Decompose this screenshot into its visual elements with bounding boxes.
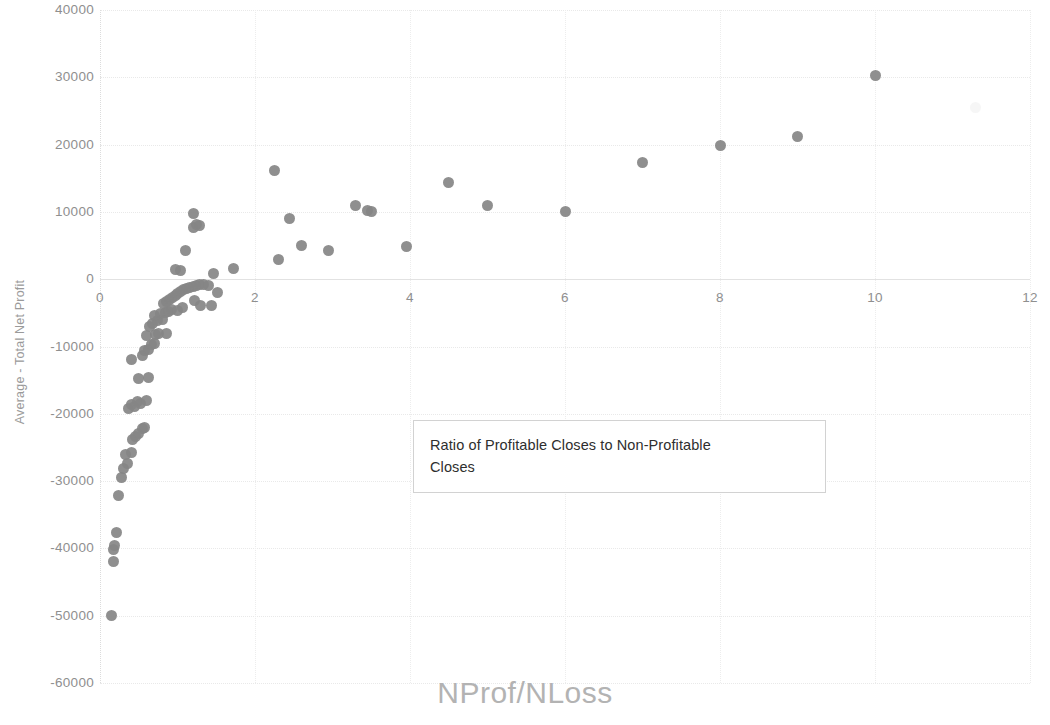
y-tick-label: 10000 bbox=[24, 205, 94, 219]
chart-page: Average - Total Net Profit 4000030000200… bbox=[0, 0, 1050, 725]
x-tick-label: 0 bbox=[80, 290, 120, 305]
x-tick-label: 8 bbox=[700, 290, 740, 305]
x-tick-label: 2 bbox=[235, 290, 275, 305]
x-tick-label: 4 bbox=[390, 290, 430, 305]
y-tick-label: 40000 bbox=[24, 3, 94, 17]
data-point bbox=[273, 254, 284, 265]
y-tick-label: -50000 bbox=[24, 609, 94, 623]
y-tick-label: 30000 bbox=[24, 70, 94, 84]
vertical-gridline bbox=[720, 10, 721, 683]
annotation-line-2: Closes bbox=[430, 456, 811, 478]
x-axis-title: NProf/NLoss bbox=[0, 676, 1050, 710]
data-point bbox=[208, 268, 219, 279]
vertical-gridline bbox=[255, 10, 256, 683]
data-point bbox=[637, 157, 648, 168]
data-point bbox=[126, 354, 137, 365]
data-point bbox=[126, 447, 137, 458]
data-point bbox=[175, 265, 186, 276]
x-axis-tick-labels: 024681012 bbox=[100, 290, 1030, 314]
data-point bbox=[194, 220, 205, 231]
data-point bbox=[111, 527, 122, 538]
data-point bbox=[443, 177, 454, 188]
data-point bbox=[108, 556, 119, 567]
data-point bbox=[715, 140, 726, 151]
data-point bbox=[180, 245, 191, 256]
annotation-line-1: Ratio of Profitable Closes to Non-Profit… bbox=[430, 434, 811, 456]
data-point bbox=[792, 131, 803, 142]
data-point bbox=[228, 263, 239, 274]
y-axis-tick-labels: 400003000020000100000-10000-20000-30000-… bbox=[20, 0, 94, 725]
data-point bbox=[366, 206, 377, 217]
data-point bbox=[870, 70, 881, 81]
x-tick-label: 10 bbox=[855, 290, 895, 305]
y-axis-line bbox=[100, 10, 101, 683]
plot-grid bbox=[100, 10, 1030, 683]
plot-area bbox=[100, 10, 1030, 683]
data-point bbox=[188, 208, 199, 219]
annotation-box: Ratio of Profitable Closes to Non-Profit… bbox=[413, 420, 826, 493]
vertical-gridline bbox=[875, 10, 876, 683]
data-point bbox=[122, 458, 133, 469]
vertical-gridline bbox=[565, 10, 566, 683]
y-tick-label: -10000 bbox=[24, 340, 94, 354]
y-tick-label: -40000 bbox=[24, 541, 94, 555]
x-tick-label: 12 bbox=[1010, 290, 1050, 305]
vertical-gridline bbox=[1030, 10, 1031, 683]
y-tick-label: 0 bbox=[24, 272, 94, 286]
data-point bbox=[296, 240, 307, 251]
data-point bbox=[143, 372, 154, 383]
data-point bbox=[560, 206, 571, 217]
y-tick-label: -30000 bbox=[24, 474, 94, 488]
vertical-gridline bbox=[410, 10, 411, 683]
data-point bbox=[401, 241, 412, 252]
y-tick-label: -20000 bbox=[24, 407, 94, 421]
data-point bbox=[141, 395, 152, 406]
y-tick-label: 20000 bbox=[24, 138, 94, 152]
x-tick-label: 6 bbox=[545, 290, 585, 305]
data-point bbox=[482, 200, 493, 211]
